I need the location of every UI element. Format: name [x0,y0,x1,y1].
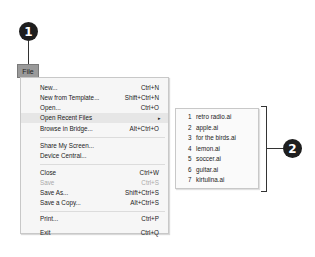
recent-file-number: 1 [188,112,196,122]
menu-item-device-central[interactable]: Device Central... [21,151,168,161]
menu-item-browse-in-bridge[interactable]: Browse in Bridge... Alt+Ctrl+O [21,124,168,134]
callout-1-leader-line [28,41,29,64]
menu-item-label: Print... [40,214,58,224]
menu-separator [40,211,165,212]
recent-file-name: guitar.ai [196,166,218,173]
recent-file-item[interactable]: 7kirtulina.ai [188,175,224,185]
menu-item-label: New... [40,83,58,93]
submenu-arrow-icon: ▸ [158,113,161,123]
menu-item-label: New from Template... [40,93,99,103]
menu-item-shortcut: Ctrl+S [141,178,159,188]
menu-item-shortcut: Alt+Ctrl+O [130,124,159,134]
menu-file[interactable]: File [17,64,39,78]
menu-item-shortcut: Ctrl+O [141,103,159,113]
menu-item-open[interactable]: Open... Ctrl+O [21,103,168,113]
recent-file-item[interactable]: 2apple.ai [188,123,218,133]
menu-item-shortcut: Shift+Ctrl+S [125,188,159,198]
menu-item-label: Device Central... [40,151,87,161]
menu-item-label: Share My Screen... [40,141,94,151]
recent-file-number: 2 [188,123,196,133]
menu-item-new-from-template[interactable]: New from Template... Shift+Ctrl+N [21,93,168,103]
callout-badge-1: 1 [19,22,38,41]
menu-item-exit[interactable]: Exit Ctrl+Q [21,228,168,238]
menu-item-label: Save As... [40,188,68,198]
menu-item-label: Close [40,168,56,178]
menu-item-shortcut: Alt+Ctrl+S [130,198,159,208]
recent-file-item[interactable]: 5soccer.ai [188,154,221,164]
menu-separator [40,137,165,138]
recent-file-name: apple.ai [196,124,218,131]
recent-file-name: lemon.ai [196,145,220,152]
menu-item-label: Open... [40,103,61,113]
menu-item-label: Exit [40,228,51,238]
menu-item-print[interactable]: Print... Ctrl+P [21,214,168,224]
recent-file-name: kirtulina.ai [196,176,224,183]
recent-file-number: 6 [188,165,196,175]
menu-item-close[interactable]: Close Ctrl+W [21,168,168,178]
recent-files-submenu: 1retro radio.ai 2apple.ai 3for the birds… [175,108,259,189]
menu-item-shortcut: Ctrl+Q [141,228,159,238]
recent-file-item[interactable]: 3for the birds.ai [188,133,236,143]
menu-item-open-recent-files[interactable]: Open Recent Files ▸ [21,113,168,123]
menu-item-shortcut: Ctrl+N [141,83,159,93]
menu-item-label: Open Recent Files [40,113,92,123]
menu-item-shortcut: Ctrl+P [141,214,159,224]
callout-badge-2: 2 [283,139,302,158]
file-menu-dropdown: New... Ctrl+N New from Template... Shift… [20,77,169,234]
menu-item-label: Save a Copy... [40,198,81,208]
menu-item-label: Save [40,178,54,188]
menu-separator [40,164,165,165]
recent-file-name: for the birds.ai [196,134,236,141]
recent-file-item[interactable]: 4lemon.ai [188,144,220,154]
menu-item-shortcut: Ctrl+W [140,168,159,178]
menu-item-share-my-screen[interactable]: Share My Screen... [21,141,168,151]
recent-file-name: soccer.ai [196,155,221,162]
menu-item-save[interactable]: Save Ctrl+S [21,178,168,188]
recent-file-number: 4 [188,144,196,154]
menu-item-new[interactable]: New... Ctrl+N [21,83,168,93]
menu-item-save-as[interactable]: Save As... Shift+Ctrl+S [21,188,168,198]
callout-2-bracket [261,106,267,192]
menu-item-label: Browse in Bridge... [40,124,93,134]
menu-item-shortcut: Shift+Ctrl+N [125,93,159,103]
recent-file-name: retro radio.ai [196,113,231,120]
recent-file-number: 7 [188,175,196,185]
recent-file-number: 3 [188,133,196,143]
recent-file-item[interactable]: 1retro radio.ai [188,112,231,122]
recent-file-number: 5 [188,154,196,164]
menu-item-save-a-copy[interactable]: Save a Copy... Alt+Ctrl+S [21,198,168,208]
recent-file-item[interactable]: 6guitar.ai [188,165,218,175]
